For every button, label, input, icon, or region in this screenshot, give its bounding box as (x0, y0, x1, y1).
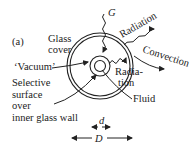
label-selective-4: inner glass wall (12, 112, 78, 123)
label-radiation-in-1: Radia- (115, 66, 143, 77)
internal-radiation-wave (110, 58, 126, 63)
label-glass-cover-2: cover (48, 44, 72, 55)
evacuated-tube-collector-diagram: (a) G Radiation Convection Glass cover ‘… (0, 0, 196, 152)
label-d: d (99, 115, 105, 126)
label-G: G (108, 7, 116, 18)
inner-tube-outer (90, 56, 110, 76)
panel-label: (a) (12, 36, 24, 48)
label-radiation-out: Radiation (118, 9, 160, 39)
label-D: D (94, 133, 103, 144)
label-radiation-in-2: tion (118, 77, 135, 88)
selective-surface-pointer (54, 75, 96, 104)
label-selective-2: surface (12, 89, 43, 100)
inner-tube-fluid (95, 61, 106, 72)
label-vacuum: ‘Vacuum’ (14, 61, 55, 72)
label-selective-1: Selective (12, 77, 51, 88)
label-fluid: Fluid (133, 93, 156, 104)
label-glass-cover-1: Glass (48, 33, 71, 44)
label-selective-3: over (12, 100, 31, 111)
